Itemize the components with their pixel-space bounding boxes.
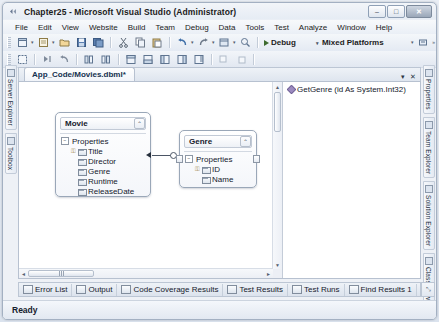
- entity-movie-collapse-icon[interactable]: ⌃: [134, 118, 145, 129]
- entity-genre-properties-section[interactable]: − Properties: [180, 154, 256, 164]
- scroll-up-icon[interactable]: ▲: [273, 82, 282, 91]
- toolbar2-grip[interactable]: [7, 54, 11, 65]
- menu-item-build[interactable]: Build: [123, 21, 151, 34]
- sidebar-item-solution-explorer[interactable]: Solution Explorer: [423, 181, 435, 250]
- send-back-icon[interactable]: [234, 52, 249, 67]
- designer-horizontal-scrollbar[interactable]: ◄ ►: [19, 268, 273, 278]
- maximize-button[interactable]: □: [387, 5, 405, 18]
- open-file-icon[interactable]: [57, 35, 72, 50]
- entity-genre-right-anchor[interactable]: [253, 155, 260, 163]
- entity-genre-collapse-icon[interactable]: ⌃: [240, 136, 251, 147]
- entity-movie-properties-section[interactable]: − Properties: [56, 136, 150, 146]
- method-item-getgenre[interactable]: GetGenre (id As System.Int32): [283, 82, 420, 94]
- sidebar-item-server-explorer[interactable]: Server Explorer: [5, 65, 17, 130]
- add-item-icon[interactable]: [36, 35, 51, 50]
- menu-item-file[interactable]: File: [10, 21, 33, 34]
- menu-item-tools[interactable]: Tools: [241, 21, 270, 34]
- find-icon[interactable]: [238, 35, 253, 50]
- entity-movie-property-runtime[interactable]: ⚿ Runtime: [56, 176, 150, 186]
- menu-item-help[interactable]: Help: [371, 21, 397, 34]
- menu-item-view[interactable]: View: [57, 21, 84, 34]
- entity-genre-section-label: Properties: [196, 155, 232, 164]
- layout-3-icon[interactable]: [158, 52, 173, 67]
- step-into-icon[interactable]: [40, 52, 55, 67]
- navigate-dropdown-icon[interactable]: ▾: [233, 40, 236, 45]
- layout-4-icon[interactable]: [175, 52, 190, 67]
- cut-icon[interactable]: [116, 35, 131, 50]
- menu-item-team[interactable]: Team: [150, 21, 180, 34]
- layout-2-icon[interactable]: [141, 52, 156, 67]
- entity-movie-property-director[interactable]: ⚿ Director: [56, 156, 150, 166]
- expander-icon[interactable]: −: [61, 137, 69, 145]
- designer-pane[interactable]: Movie ⌃ − Properties ⚿ Title: [19, 82, 282, 278]
- add-item-dropdown-icon[interactable]: ▾: [52, 40, 55, 45]
- entity-genre[interactable]: Genre ⌃ − Properties ⚿ ID: [179, 130, 257, 188]
- tab-close-icon[interactable]: ✕: [410, 73, 416, 80]
- menu-item-debug[interactable]: Debug: [180, 21, 214, 34]
- vertical-scroll-thumb[interactable]: [274, 92, 281, 132]
- platform-combo[interactable]: ▾ Mixed Platforms: [316, 38, 386, 47]
- tab-movies-dbml[interactable]: App_Code/Movies.dbml*: [24, 67, 135, 82]
- close-button[interactable]: ✕: [406, 5, 432, 18]
- save-all-icon[interactable]: [91, 35, 106, 50]
- entity-genre-left-anchor[interactable]: [176, 155, 183, 163]
- methods-pane[interactable]: GetGenre (id As System.Int32): [282, 82, 420, 278]
- menu-item-website[interactable]: Website: [84, 21, 123, 34]
- entity-movie[interactable]: Movie ⌃ − Properties ⚿ Title: [55, 112, 151, 197]
- menu-item-window[interactable]: Window: [332, 21, 370, 34]
- toolbar-overflow-icon[interactable]: »: [432, 40, 435, 45]
- debug-config-combo[interactable]: Debug: [271, 38, 298, 47]
- tab-output[interactable]: Output: [72, 284, 117, 296]
- menu-item-edit[interactable]: Edit: [33, 21, 57, 34]
- tab-find-results-1[interactable]: Find Results 1: [345, 284, 417, 296]
- save-icon[interactable]: [74, 35, 89, 50]
- align-left-icon[interactable]: [82, 52, 97, 67]
- entity-genre-property-id[interactable]: ⚿ ID: [180, 164, 256, 174]
- entity-movie-property-genre[interactable]: ⚿ Genre: [56, 166, 150, 176]
- scroll-left-icon[interactable]: ◄: [19, 269, 28, 278]
- layout-1-icon[interactable]: [124, 52, 139, 67]
- copy-icon[interactable]: [133, 35, 148, 50]
- entity-movie-property-releasedate[interactable]: ⚿ ReleaseDate: [56, 186, 150, 196]
- sidebar-item-toolbox[interactable]: Toolbox: [5, 133, 17, 174]
- start-debugging-button[interactable]: Debug: [264, 38, 298, 47]
- tab-list-dropdown-icon[interactable]: ▾: [401, 73, 405, 80]
- undo-dropdown-icon[interactable]: ▾: [191, 40, 194, 45]
- designer-canvas[interactable]: Movie ⌃ − Properties ⚿ Title: [19, 82, 273, 269]
- step-back-icon[interactable]: [57, 52, 72, 67]
- layout-5-icon[interactable]: [192, 52, 207, 67]
- toolbar-grip[interactable]: [7, 37, 11, 48]
- hammer-icon[interactable]: [416, 35, 431, 50]
- new-project-icon[interactable]: [15, 35, 30, 50]
- method-icon: [287, 86, 294, 93]
- designer-vertical-scrollbar[interactable]: ▲ ▼: [272, 82, 282, 269]
- minimize-button[interactable]: –: [368, 5, 386, 18]
- redo-dropdown-icon[interactable]: ▾: [212, 40, 215, 45]
- menu-item-test[interactable]: Test: [269, 21, 294, 34]
- entity-movie-property-title[interactable]: ⚿ Title: [56, 146, 150, 156]
- new-project-dropdown-icon[interactable]: ▾: [31, 40, 34, 45]
- align-right-icon[interactable]: [99, 52, 114, 67]
- platform-dropdown-icon[interactable]: ▾: [411, 40, 414, 45]
- tab-code-coverage-results[interactable]: Code Coverage Results: [117, 284, 223, 296]
- select-tool-icon[interactable]: [15, 52, 30, 67]
- tab-test-results[interactable]: Test Results: [223, 284, 288, 296]
- scroll-down-icon[interactable]: ▼: [273, 260, 282, 269]
- tab-error-list[interactable]: Error List: [19, 284, 72, 296]
- bring-front-icon[interactable]: [217, 52, 232, 67]
- tab-test-runs[interactable]: Test Runs: [288, 284, 345, 296]
- undo-icon[interactable]: [175, 35, 190, 50]
- toolbox-icon: [7, 137, 15, 145]
- sidebar-item-team-explorer[interactable]: Team Explorer: [423, 117, 435, 178]
- entity-genre-property-name[interactable]: ⚿ Name: [180, 174, 256, 184]
- bottom-tabs-overflow-button[interactable]: ⤡: [421, 282, 435, 297]
- redo-icon[interactable]: [196, 35, 211, 50]
- sidebar-item-properties[interactable]: Properties: [423, 65, 435, 114]
- menu-item-analyze[interactable]: Analyze: [294, 21, 332, 34]
- scroll-right-icon[interactable]: ►: [264, 269, 273, 278]
- horizontal-scroll-thumb[interactable]: [28, 270, 94, 277]
- paste-icon[interactable]: [150, 35, 165, 50]
- menu-item-data[interactable]: Data: [214, 21, 241, 34]
- navigate-icon[interactable]: [217, 35, 232, 50]
- expander-icon[interactable]: −: [185, 155, 193, 163]
